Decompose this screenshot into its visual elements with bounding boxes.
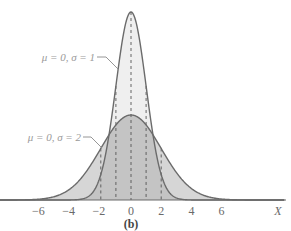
x-tick-label: 6	[219, 204, 225, 218]
x-tick-label: 4	[188, 204, 194, 218]
overlap-area	[0, 115, 285, 200]
x-tick-label: 2	[158, 204, 164, 218]
figure-caption: (b)	[124, 217, 139, 231]
sigma1-label: μ = 0, σ = 1	[41, 51, 95, 63]
sigma2-leader-line	[83, 137, 102, 148]
x-tick-labels: −6−4−20246	[32, 204, 225, 218]
normal-distribution-chart: −6−4−20246 X (b) μ = 0, σ = 1 μ = 0, σ =…	[0, 0, 291, 231]
x-tick-label: −4	[62, 204, 75, 218]
sigma1-leader-line	[97, 57, 119, 70]
curve-areas	[0, 12, 285, 200]
x-tick-label: −6	[32, 204, 45, 218]
x-axis-label: X	[273, 204, 282, 218]
x-tick-label: 0	[128, 204, 134, 218]
x-tick-label: −2	[92, 204, 105, 218]
sigma2-label: μ = 0, σ = 2	[27, 131, 82, 143]
